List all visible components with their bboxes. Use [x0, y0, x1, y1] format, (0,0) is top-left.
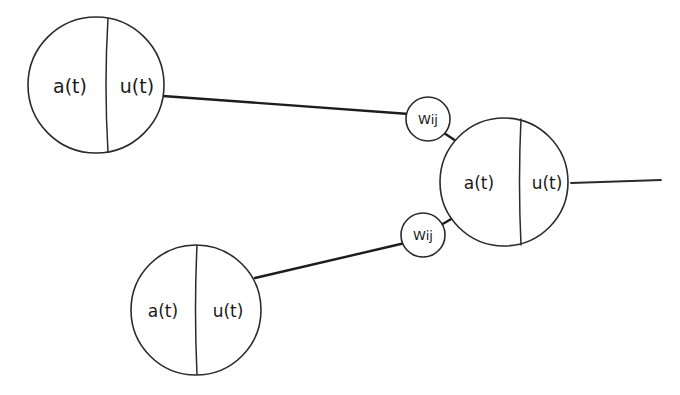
node-top-left[interactable]: a(t) u(t)	[28, 17, 164, 153]
weight-upper[interactable]: Wij	[406, 97, 450, 141]
node-bottom-left[interactable]: a(t) u(t)	[131, 245, 261, 375]
weight-upper-label: Wij	[418, 112, 438, 127]
weight-lower[interactable]: Wij	[401, 213, 445, 257]
neuron-connectivity-diagram: a(t) u(t) a(t) u(t) a(t) u(t) Wij Wij	[0, 0, 680, 395]
edge-bottom-left-to-weight-lower	[255, 243, 405, 278]
node-top-left-output-label: u(t)	[120, 75, 154, 97]
node-bottom-left-activation-label: a(t)	[148, 301, 178, 321]
edge-top-left-to-weight-upper	[163, 96, 409, 114]
output-axon-line	[571, 180, 661, 183]
node-right-activation-label: a(t)	[464, 173, 494, 193]
diagram-canvas: a(t) u(t) a(t) u(t) a(t) u(t) Wij Wij	[0, 0, 680, 395]
weight-lower-label: Wij	[413, 228, 433, 243]
node-right-output-label: u(t)	[532, 173, 563, 193]
node-right[interactable]: a(t) u(t)	[440, 118, 568, 246]
node-bottom-left-output-label: u(t)	[213, 301, 244, 321]
node-top-left-activation-label: a(t)	[53, 75, 87, 97]
